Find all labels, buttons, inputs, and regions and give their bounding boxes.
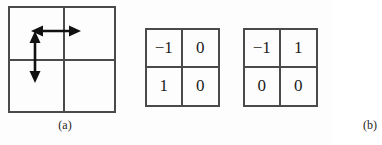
matrix-1-cell-r1c0: 1 [147,68,183,106]
matrix-2-cell-r1c0: 0 [245,68,281,106]
panel-a: (a) [0,0,140,145]
matrix-1-cell-r1c1: 0 [183,68,219,106]
matrix-2-cell-r1c1: 0 [281,68,317,106]
caption-b: (b) [305,118,382,133]
grid-2x2-outline [8,6,116,113]
matrix-1-cell-r0c1: 0 [183,30,219,68]
matrix-2: −1 1 0 0 [243,28,318,107]
panel-b: −1 0 1 0 −1 1 0 0 (b) [140,0,332,145]
matrix-2-cell-r0c0: −1 [245,30,281,68]
matrix-1-cell-r0c0: −1 [147,30,183,68]
caption-a: (a) [0,118,130,133]
matrix-1: −1 0 1 0 [145,28,220,107]
matrix-2-cell-r0c1: 1 [281,30,317,68]
grid-divider-horizontal [10,59,114,61]
